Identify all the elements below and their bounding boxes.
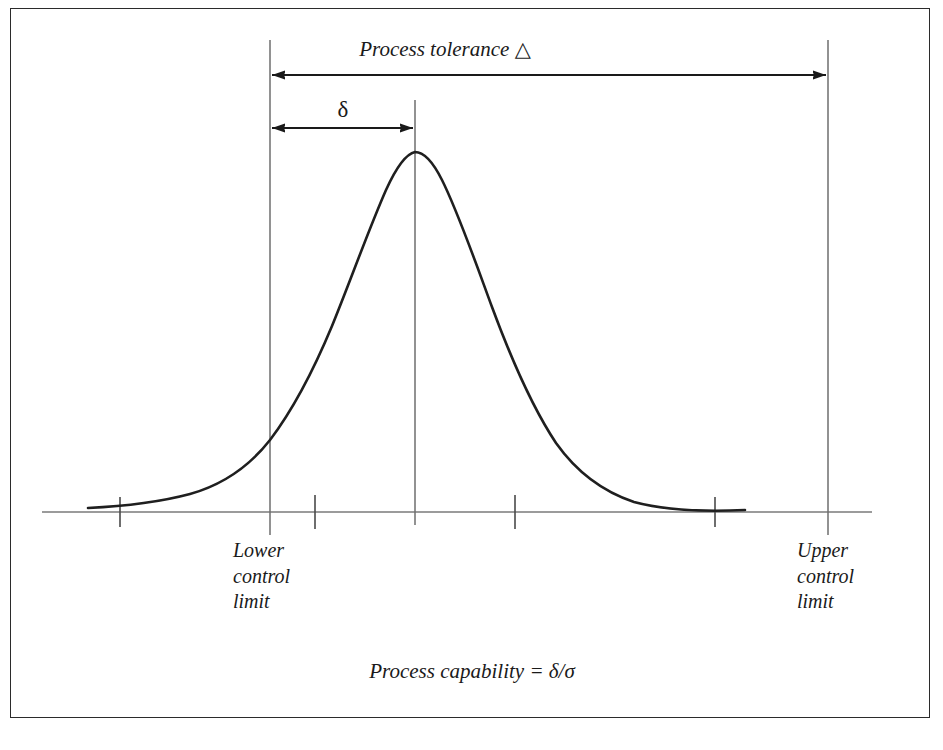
process-capability-diagram: [0, 0, 943, 750]
upper-control-limit-label: Upper control limit: [797, 538, 854, 615]
lower-control-limit-label: Lower control limit: [233, 538, 290, 615]
process-tolerance-label: Process tolerance △: [359, 36, 531, 63]
delta-symbol-label: δ: [338, 95, 349, 124]
figure-root: Process tolerance △ δ Lower control limi…: [0, 0, 943, 750]
bell-curve: [88, 152, 745, 511]
process-capability-formula: Process capability = δ/σ: [369, 658, 575, 685]
